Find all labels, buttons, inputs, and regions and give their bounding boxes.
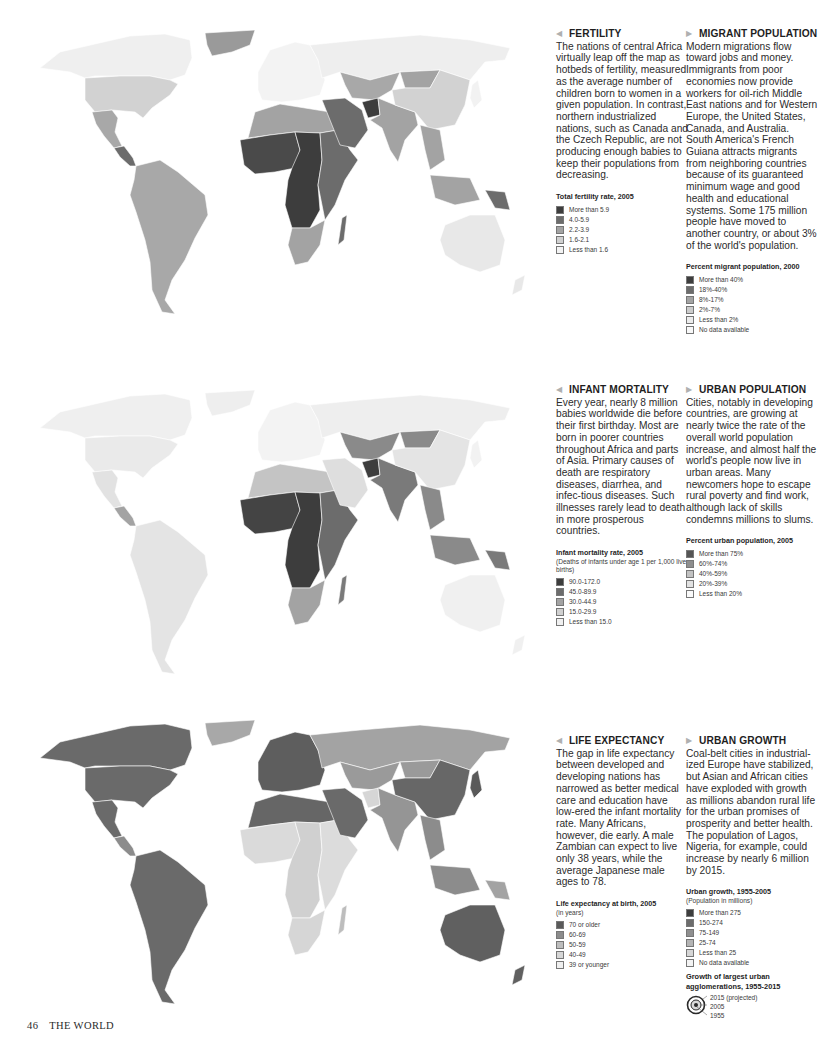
- legend-label: 60%-74%: [699, 560, 727, 568]
- legend-label: 60-69: [569, 931, 586, 939]
- life-expectancy-map: [0, 690, 540, 1020]
- legend-swatch: [556, 216, 564, 224]
- legend-swatch: [686, 580, 694, 588]
- legend-label: Less than 25: [699, 949, 736, 957]
- region-south-america: [130, 520, 208, 674]
- urban-population-legend: Percent urban population, 2005 More than…: [686, 537, 818, 599]
- region-canada: [40, 724, 192, 770]
- legend-swatch: [556, 206, 564, 214]
- legend-swatch: [686, 550, 694, 558]
- legend-label: 39 or younger: [569, 961, 609, 969]
- legend-swatch: [686, 276, 694, 284]
- urban-growth-legend: Urban growth, 1955-2005 (Population in m…: [686, 888, 818, 1020]
- legend-swatch: [556, 951, 564, 959]
- region-greenland: [205, 390, 255, 416]
- legend-swatch: [686, 560, 694, 568]
- region-png: [485, 190, 510, 210]
- legend-swatch: [686, 909, 694, 917]
- legend-swatch: [556, 931, 564, 939]
- region-west-africa: [240, 822, 300, 864]
- region-mexico: [92, 110, 122, 148]
- section-body: Every year, nearly 8 million babies worl…: [556, 397, 688, 537]
- region-japan: [470, 440, 482, 468]
- arrow-right-icon: ▶: [686, 28, 694, 40]
- fertility-legend: Total fertility rate, 2005 More than 5.9…: [556, 193, 688, 255]
- legend-label: 150-274: [699, 919, 723, 927]
- legend-swatch: [556, 236, 564, 244]
- region-central-america: [114, 836, 136, 856]
- legend-swatch: [686, 939, 694, 947]
- region-australia: [440, 215, 505, 272]
- agglomeration-legend-title: Growth of largest urban agglomerations, …: [686, 972, 818, 991]
- legend-item: No data available: [686, 325, 818, 335]
- legend-item: 4.0-5.9: [556, 215, 688, 225]
- legend-item: 75-149: [686, 928, 818, 938]
- legend-swatch: [556, 588, 564, 596]
- legend-swatch: [686, 316, 694, 324]
- arrow-left-icon: ◀: [556, 735, 564, 747]
- label-2005: 2005: [710, 1002, 757, 1011]
- region-australia: [512, 965, 525, 985]
- legend-title: Percent migrant population, 2000: [686, 263, 818, 272]
- arrow-left-icon: ◀: [556, 28, 564, 40]
- legend-subtitle: (Population in millions): [686, 897, 818, 905]
- region-afghanistan: [362, 788, 380, 808]
- migrant-legend: Percent migrant population, 2000 More th…: [686, 263, 818, 335]
- legend-item: Less than 25: [686, 948, 818, 958]
- infant-mortality-legend: Infant mortality rate, 2005 (Deaths of i…: [556, 549, 688, 627]
- legend-item: 40-49: [556, 950, 688, 960]
- legend-item: No data available: [686, 958, 818, 968]
- legend-label: Less than 2%: [699, 316, 738, 324]
- legend-item: 8%-17%: [686, 295, 818, 305]
- life-expectancy-section: ◀ LIFE EXPECTANCY The gap in life expect…: [556, 735, 688, 970]
- legend-item: 15.0-29.9: [556, 607, 688, 617]
- page-footer: 46 THE WORLD: [27, 1020, 114, 1031]
- legend-label: 2%-7%: [699, 306, 720, 314]
- legend-label: More than 40%: [699, 276, 743, 284]
- legend-label: 25-74: [699, 939, 716, 947]
- section-body: The nations of central Africa virtually …: [556, 41, 688, 181]
- legend-label: More than 75%: [699, 550, 743, 558]
- legend-swatch: [556, 226, 564, 234]
- region-png: [485, 550, 510, 570]
- section-body: Modern migrations flow toward jobs and m…: [686, 41, 818, 252]
- legend-list: 90.0-172.045.0-89.930.0-44.915.0-29.9Les…: [556, 577, 688, 627]
- circle-legend: 2015 (projected) 2005 1955: [686, 993, 818, 1020]
- legend-item: More than 275: [686, 908, 818, 918]
- fertility-section: ◀ FERTILITY The nations of central Afric…: [556, 28, 688, 255]
- legend-label: 18%-40%: [699, 286, 727, 294]
- legend-label: More than 275: [699, 909, 741, 917]
- concentric-circles-icon: [686, 993, 708, 1019]
- legend-label: 70 or older: [569, 921, 600, 929]
- legend-swatch: [686, 296, 694, 304]
- legend-list: More than 75%60%-74%40%-59%20%-39%Less t…: [686, 549, 818, 599]
- legend-item: 25-74: [686, 938, 818, 948]
- page-number: 46: [27, 1020, 38, 1031]
- legend-item: More than 40%: [686, 275, 818, 285]
- section-heading: ◀ FERTILITY: [556, 28, 688, 40]
- legend-label: 45.0-89.9: [569, 588, 596, 596]
- agglomeration-legend: Growth of largest urban agglomerations, …: [686, 972, 818, 1020]
- legend-label: 90.0-172.0: [569, 578, 600, 586]
- region-south-america: [130, 850, 208, 1004]
- legend-item: 39 or younger: [556, 960, 688, 970]
- legend-item: 1.6-2.1: [556, 235, 688, 245]
- region-mexico: [92, 470, 122, 508]
- legend-label: 4.0-5.9: [569, 216, 589, 224]
- region-southeast-asia: [420, 815, 480, 895]
- legend-label: Less than 15.0: [569, 618, 612, 626]
- legend-item: 2.2-3.9: [556, 225, 688, 235]
- legend-label: More than 5.9: [569, 206, 609, 214]
- region-afghanistan: [362, 98, 380, 118]
- legend-label: 50-59: [569, 941, 586, 949]
- arrow-right-icon: ▶: [686, 384, 694, 396]
- legend-item: 150-274: [686, 918, 818, 928]
- legend-item: 60%-74%: [686, 559, 818, 569]
- urban-population-section: ▶ URBAN POPULATION Cities, notably in de…: [686, 384, 818, 599]
- region-canada: [40, 34, 192, 80]
- legend-item: Less than 15.0: [556, 617, 688, 627]
- region-afghanistan: [362, 458, 380, 478]
- legend-label: No data available: [699, 959, 749, 967]
- legend-label: 8%-17%: [699, 296, 724, 304]
- legend-subtitle: (Deaths of infants under age 1 per 1,000…: [556, 558, 688, 574]
